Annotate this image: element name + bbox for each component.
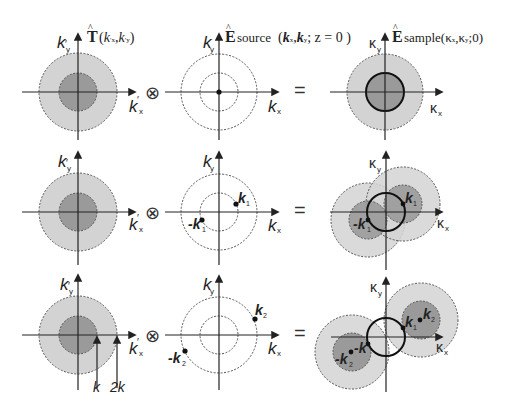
x-axis-label: κ: [430, 100, 438, 116]
svg-text:y: y: [210, 164, 214, 173]
svg-text:x: x: [445, 224, 449, 233]
svg-text:source: source: [237, 30, 271, 45]
svg-text:-k: -k: [168, 350, 182, 366]
equals-operator-row-2: =: [294, 199, 306, 221]
svg-text:(kx,ky; z = 0 ): (kx,ky; z = 0 ): [278, 30, 351, 46]
svg-text:(k′x,k′y): (k′x,k′y): [99, 30, 135, 46]
x-axis-label: k′: [129, 95, 140, 116]
source-title: E ^ source (kx,ky; z = 0 ): [225, 22, 351, 46]
svg-text:x: x: [277, 107, 281, 116]
svg-text:2: 2: [349, 361, 353, 368]
transfer-panel-row-2: k′ y k′ x: [22, 152, 143, 265]
origin-point: [216, 89, 221, 94]
convolve-operator-row-2: ⊗: [145, 203, 160, 223]
svg-text:x: x: [277, 349, 281, 358]
svg-text:2: 2: [431, 316, 435, 323]
y-axis-label: κ: [369, 35, 377, 51]
svg-text:2: 2: [182, 360, 186, 367]
figure: k′ y k′ x T ^ (k′x,k′y) ⊗ k y k x E ^ so…: [0, 0, 512, 417]
svg-text:1: 1: [202, 226, 206, 233]
svg-text:κ: κ: [437, 215, 445, 231]
svg-text:x: x: [277, 226, 281, 235]
svg-text:-k: -k: [188, 216, 202, 232]
sample-panel-row-1: κ y κ x E ^ sample(κx,κy;0): [330, 22, 483, 140]
source-panel-row-3: k y k x k 2 -k 2: [165, 275, 281, 390]
svg-text:k′: k′: [129, 213, 140, 234]
svg-text:^: ^: [88, 22, 93, 33]
sample-title: E ^ sample(κx,κy;0): [392, 22, 483, 45]
svg-text:1: 1: [246, 200, 250, 207]
source-panel-row-2: k y k x k 1 -k 1: [165, 152, 281, 265]
svg-text:x: x: [139, 225, 143, 234]
transfer-panel-row-3: k′ y k′ x k 2k: [22, 275, 143, 395]
svg-text:^: ^: [393, 22, 398, 33]
svg-text:y: y: [377, 165, 381, 174]
svg-text:κ: κ: [370, 279, 378, 295]
radius-label-k: k: [93, 379, 101, 395]
radius-label-2k: 2k: [109, 379, 126, 395]
figure-canvas: k′ y k′ x T ^ (k′x,k′y) ⊗ k y k x E ^ so…: [0, 0, 512, 417]
svg-text:1: 1: [367, 226, 371, 233]
svg-text:y: y: [66, 45, 70, 54]
svg-text:-k: -k: [354, 340, 368, 356]
svg-text:x: x: [438, 109, 442, 118]
svg-text:1: 1: [413, 200, 417, 207]
svg-text:κ: κ: [369, 155, 377, 171]
svg-text:y: y: [377, 45, 381, 54]
svg-text:2: 2: [263, 312, 267, 319]
svg-text:-k: -k: [353, 216, 367, 232]
convolve-operator-row-3: ⊗: [145, 326, 160, 346]
svg-text:x: x: [139, 349, 143, 358]
svg-text:y: y: [210, 287, 214, 296]
equals-operator-row-3: =: [294, 322, 306, 344]
svg-text:y: y: [378, 289, 382, 298]
point-minus-k2: [182, 348, 187, 353]
svg-text:k′: k′: [129, 337, 140, 358]
equals-operator-row-1: =: [294, 79, 306, 101]
svg-text:y: y: [67, 164, 71, 173]
svg-text:x: x: [139, 107, 143, 116]
source-panel-row-1: k y k x E ^ source (kx,ky; z = 0 ): [165, 22, 351, 140]
svg-text:κ: κ: [436, 339, 444, 355]
sample-panel-row-3: κ y κ x k 1 k 2 -k -k 2: [315, 278, 458, 392]
svg-text:-k: -k: [335, 351, 349, 367]
svg-text:1: 1: [413, 324, 417, 331]
convolve-operator-row-1: ⊗: [145, 83, 160, 103]
sample-panel-row-2: κ y κ x k 1 -k 1: [330, 152, 449, 270]
svg-text:x: x: [444, 348, 448, 357]
svg-text:y: y: [69, 287, 73, 296]
transfer-panel-row-1: k′ y k′ x T ^ (k′x,k′y): [22, 22, 143, 140]
svg-text:^: ^: [226, 22, 231, 33]
svg-text:y: y: [210, 45, 214, 54]
svg-text:sample(κx,κy;0): sample(κx,κy;0): [404, 30, 483, 45]
transfer-title: T ^ (k′x,k′y): [87, 22, 135, 46]
